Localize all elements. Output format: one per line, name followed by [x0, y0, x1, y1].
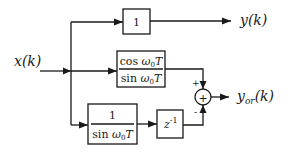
delay-to-sum-line	[183, 105, 203, 125]
block-diagram: x(k) 1 y(k) cos ω0T sin ω0T + + - yor(k)…	[0, 0, 290, 157]
block-inv-sin: 1 sin ω0T	[88, 104, 137, 144]
inv-sin-denominator: sin ω0T	[92, 128, 134, 142]
sum-junction: +	[195, 89, 211, 105]
cos-sin-denominator: sin ω0T	[121, 72, 163, 86]
arrowhead-sum-bottom	[200, 105, 207, 113]
block-delay: z-1	[157, 110, 183, 138]
sum-sign-plus: +	[192, 78, 200, 88]
sum-sign-minus: -	[194, 107, 197, 117]
block-gain: 1	[123, 9, 150, 34]
input-arrowhead	[63, 68, 71, 75]
arrowhead-gain	[114, 19, 123, 26]
output-y-label: y(k)	[239, 12, 267, 28]
output-yor-label: yor(k)	[236, 88, 274, 106]
arrowhead-inv-sin	[79, 122, 88, 129]
inv-sin-numerator: 1	[109, 109, 116, 122]
gain-text: 1	[133, 16, 140, 29]
arrowhead-sum-top	[200, 81, 207, 89]
arrowhead-yor	[220, 94, 229, 101]
arrowhead-y	[222, 18, 231, 25]
arrowhead-delay	[148, 121, 157, 128]
input-label: x(k)	[14, 53, 41, 69]
sum-symbol: +	[198, 92, 207, 105]
arrowhead-cos-sin	[108, 68, 117, 75]
cos-sin-numerator: cos ω0T	[120, 55, 164, 69]
block-cos-sin: cos ω0T sin ω0T	[117, 51, 165, 87]
